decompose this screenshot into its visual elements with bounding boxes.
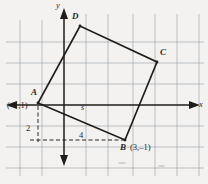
dashed-guides [30,106,125,142]
quadrilateral-abcd [38,26,157,140]
vertex-marker-a [37,102,40,105]
coordinate-geometry-figure: A (–1,1) B (3,–1) C D x y 2 4 s [0,0,208,184]
vertex-marker-c [156,61,159,64]
y-axis [60,8,68,166]
vertex-marker-d [79,25,82,28]
x-axis [6,101,200,109]
figure-canvas [0,0,208,184]
grid-vertical-lines [20,14,199,176]
vertex-marker-b [124,139,127,142]
